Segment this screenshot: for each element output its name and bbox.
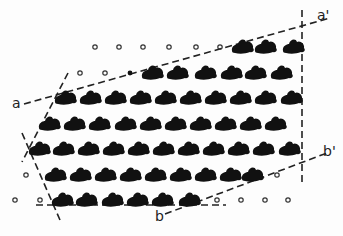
empty-site-circle xyxy=(263,198,267,202)
empty-site-circle xyxy=(141,45,145,49)
empty-site-circle xyxy=(93,45,97,49)
molecule-blob xyxy=(265,117,287,131)
molecule-blob xyxy=(232,40,254,54)
molecule-blob xyxy=(53,142,75,156)
molecule-blob xyxy=(103,142,125,156)
boundary-lines xyxy=(22,10,330,220)
molecule-blob xyxy=(179,193,201,207)
molecule-blob xyxy=(140,117,162,131)
molecule-blob xyxy=(271,66,293,80)
molecule-blob xyxy=(230,91,252,105)
label-b: b xyxy=(155,209,164,223)
molecule-blob xyxy=(78,142,100,156)
label-b-prime: b' xyxy=(323,144,336,158)
empty-site-circle xyxy=(13,198,17,202)
empty-site-circle xyxy=(239,198,243,202)
molecule-blob xyxy=(240,117,262,131)
molecule-blob xyxy=(279,142,301,156)
molecule-blob xyxy=(255,91,277,105)
molecule-blob xyxy=(221,66,243,80)
molecule-blob xyxy=(283,40,305,54)
molecule-blob xyxy=(127,193,149,207)
molecule-blob xyxy=(195,168,217,182)
molecule-blob xyxy=(165,117,187,131)
lattice-svg xyxy=(0,0,343,236)
molecule-blob xyxy=(52,193,74,207)
empty-site-circle xyxy=(167,45,171,49)
molecule-blob xyxy=(180,91,202,105)
molecule-blob xyxy=(255,40,277,54)
molecule-blob xyxy=(205,91,227,105)
label-a: a xyxy=(12,96,21,110)
molecule-blob xyxy=(76,193,98,207)
empty-site-circle xyxy=(78,71,82,75)
a-a-prime-line xyxy=(24,18,330,104)
molecule-blob xyxy=(45,168,67,182)
empty-site-circle xyxy=(117,45,121,49)
molecule-blob xyxy=(167,66,189,80)
molecule-blob xyxy=(178,142,200,156)
molecule-blob xyxy=(120,168,142,182)
empty-site-circle xyxy=(215,198,219,202)
empty-site-circle xyxy=(275,173,279,177)
molecule-blob xyxy=(170,168,192,182)
molecule-blob xyxy=(190,117,212,131)
empty-site-circle xyxy=(38,198,42,202)
molecule-blob xyxy=(89,117,111,131)
molecule-blob xyxy=(281,91,303,105)
molecule-blob xyxy=(215,117,237,131)
molecule-blob xyxy=(245,66,267,80)
molecule-blob xyxy=(220,168,242,182)
molecule-blob xyxy=(253,142,275,156)
molecule-blob xyxy=(228,142,250,156)
molecule-blob xyxy=(142,66,164,80)
molecule-blob xyxy=(80,91,102,105)
molecule-blob xyxy=(153,142,175,156)
filled-site-dot xyxy=(128,71,133,76)
empty-site-circle xyxy=(286,198,290,202)
molecule-blob xyxy=(155,91,177,105)
molecule-blob xyxy=(95,168,117,182)
empty-site-circle xyxy=(194,45,198,49)
molecule-blob xyxy=(105,91,127,105)
molecule-blob xyxy=(55,91,77,105)
molecule-blob xyxy=(102,193,124,207)
molecule-blob xyxy=(242,168,264,182)
molecule-blob xyxy=(152,193,174,207)
molecule-blob xyxy=(128,142,150,156)
label-a-prime: a' xyxy=(317,8,329,22)
molecule-blob xyxy=(70,168,92,182)
molecule-blob xyxy=(195,66,217,80)
molecule-blob xyxy=(64,117,86,131)
molecule-blob xyxy=(130,91,152,105)
lattice-diagram: a a' b b' xyxy=(0,0,343,236)
molecule-blob xyxy=(39,117,61,131)
empty-site-circle xyxy=(24,173,28,177)
molecule-blob xyxy=(145,168,167,182)
molecule-blob xyxy=(115,117,137,131)
molecule-blob xyxy=(203,142,225,156)
empty-site-circle xyxy=(103,71,107,75)
